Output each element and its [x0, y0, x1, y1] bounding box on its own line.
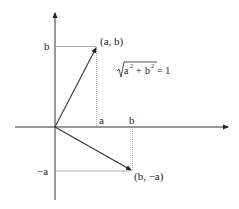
rotation-diagram: b −a a b (a, b) (b, −a) a 2 + b 2 = 1 — [0, 0, 239, 209]
unit-norm-formula: a 2 + b 2 = 1 — [117, 62, 170, 77]
formula-a: a — [124, 65, 129, 76]
vector-b-neg-a — [55, 127, 131, 170]
x-label-b: b — [129, 114, 135, 126]
point-label-b-neg-a: (b, −a) — [134, 170, 164, 183]
vector-a-b — [55, 48, 96, 127]
formula-plus: + — [136, 65, 142, 76]
x-label-a: a — [99, 114, 104, 126]
formula-equals: = 1 — [157, 65, 170, 76]
y-label-neg-a: −a — [37, 165, 48, 177]
formula-b: b — [145, 65, 150, 76]
formula-b-exp: 2 — [151, 63, 154, 69]
formula-a-exp: 2 — [130, 63, 133, 69]
point-label-a-b: (a, b) — [100, 35, 124, 48]
y-label-b: b — [44, 40, 50, 52]
